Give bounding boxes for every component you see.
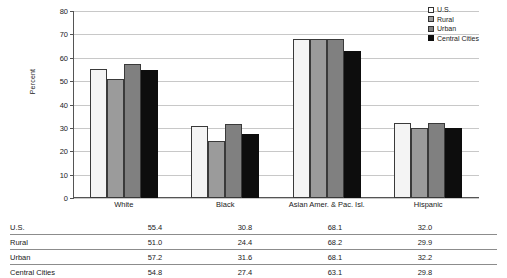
x-axis-category-label: Hispanic	[378, 200, 480, 214]
table-cell: 68.2	[290, 238, 380, 247]
legend-item[interactable]: U.S.	[428, 6, 479, 13]
table-cell: 57.2	[110, 253, 200, 262]
y-tick-label: 60	[60, 53, 68, 62]
bar	[124, 64, 141, 198]
legend-item-label: Urban	[437, 25, 456, 32]
table-cell: 32.0	[380, 223, 470, 232]
bar	[293, 39, 310, 198]
gridline	[73, 198, 479, 199]
x-axis-category-label: Asian Amer. & Pac. Isl.	[276, 200, 378, 214]
table-cell: 29.8	[380, 268, 470, 277]
bar-group	[175, 11, 277, 198]
bar	[394, 123, 411, 198]
legend-swatch-icon	[428, 26, 434, 32]
chart-figure: Percent 01020304050607080 WhiteBlackAsia…	[0, 0, 507, 278]
table-cell: 63.1	[290, 268, 380, 277]
x-axis-category-label: Black	[175, 200, 277, 214]
table-cell: 54.8	[110, 268, 200, 277]
table-cell: 32.2	[380, 253, 470, 262]
bar	[344, 51, 361, 198]
plot-area: 01020304050607080	[73, 11, 479, 198]
y-tick-mark	[70, 198, 74, 199]
table-cell: 30.8	[200, 223, 290, 232]
data-table: U.S.55.430.868.132.0Rural51.024.468.229.…	[10, 220, 497, 278]
table-row: Urban57.231.668.132.2	[10, 250, 497, 265]
x-axis-category-labels: WhiteBlackAsian Amer. & Pac. Isl.Hispani…	[73, 200, 479, 214]
table-cell: 51.0	[110, 238, 200, 247]
bar	[428, 123, 445, 198]
table-cell: 31.6	[200, 253, 290, 262]
bar-group	[73, 11, 175, 198]
table-row: U.S.55.430.868.132.0	[10, 220, 497, 235]
y-tick-label: 40	[60, 100, 68, 109]
bar-set	[293, 11, 361, 198]
y-tick-label: 50	[60, 77, 68, 86]
y-tick-label: 10	[60, 170, 68, 179]
table-row-label: Urban	[10, 253, 110, 262]
y-tick-label: 70	[60, 30, 68, 39]
table-row: Rural51.024.468.229.9	[10, 235, 497, 250]
y-tick-label: 80	[60, 7, 68, 16]
bar	[445, 128, 462, 198]
bar	[310, 39, 327, 198]
bar	[107, 79, 124, 198]
bar-set	[191, 11, 259, 198]
bar	[208, 141, 225, 198]
table-row-label: Central Cities	[10, 268, 110, 277]
table-cell: 24.4	[200, 238, 290, 247]
table-row-label: Rural	[10, 238, 110, 247]
bar	[141, 70, 158, 198]
legend-item-label: U.S.	[437, 6, 451, 13]
bar	[90, 69, 107, 198]
legend-item-label: Rural	[437, 16, 454, 23]
bar	[191, 126, 208, 198]
chart-legend: U.S.RuralUrbanCentral Cities	[428, 6, 479, 42]
bar	[327, 39, 344, 198]
legend-swatch-icon	[428, 35, 434, 41]
table-cell: 55.4	[110, 223, 200, 232]
bar-set	[90, 11, 158, 198]
table-cell: 68.1	[290, 223, 380, 232]
y-tick-label: 30	[60, 123, 68, 132]
legend-item[interactable]: Urban	[428, 25, 479, 32]
table-cell: 27.4	[200, 268, 290, 277]
bar	[225, 124, 242, 198]
legend-item[interactable]: Central Cities	[428, 35, 479, 42]
x-axis-category-label: White	[73, 200, 175, 214]
y-tick-label: 20	[60, 147, 68, 156]
legend-item[interactable]: Rural	[428, 16, 479, 23]
bar	[411, 128, 428, 198]
table-row-label: U.S.	[10, 223, 110, 232]
bar-group	[276, 11, 378, 198]
bar-groups	[73, 11, 479, 198]
y-axis-title: Percent	[29, 52, 36, 112]
table-cell: 68.1	[290, 253, 380, 262]
table-cell: 29.9	[380, 238, 470, 247]
legend-swatch-icon	[428, 16, 434, 22]
legend-item-label: Central Cities	[437, 35, 479, 42]
legend-swatch-icon	[428, 7, 434, 13]
y-tick-label: 0	[64, 194, 68, 203]
bar	[242, 134, 259, 198]
table-row: Central Cities54.827.463.129.8	[10, 265, 497, 278]
